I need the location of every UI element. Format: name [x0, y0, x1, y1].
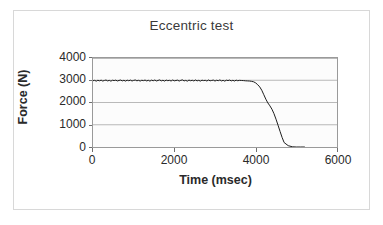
- chart-figure: Eccentric test Force (N) 4000 3000 2000 …: [0, 0, 383, 225]
- x-tick-label: 2000: [144, 153, 204, 167]
- x-tick-mark: [92, 148, 93, 152]
- x-tick-mark: [256, 148, 257, 152]
- x-tick-label: 0: [62, 153, 122, 167]
- x-tick-mark: [337, 148, 338, 152]
- x-tick-label: 4000: [226, 153, 286, 167]
- x-axis-label: Time (msec): [0, 173, 383, 187]
- x-axis-tick-labels: 0 2000 4000 6000: [0, 153, 383, 169]
- x-axis-tick-marks: [0, 0, 383, 225]
- x-tick-mark: [174, 148, 175, 152]
- x-tick-label: 6000: [308, 153, 368, 167]
